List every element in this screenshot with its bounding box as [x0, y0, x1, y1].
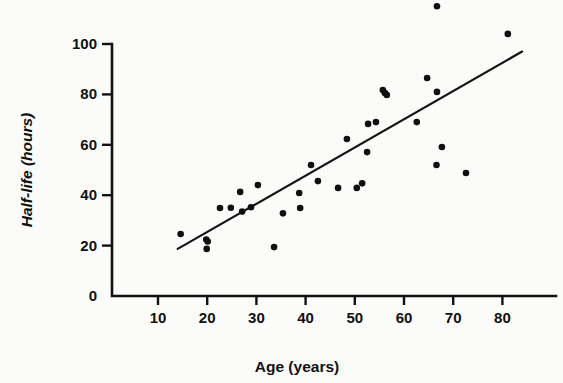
x-tick-label-20: 20 — [199, 309, 216, 326]
regression-line-segment — [178, 52, 522, 249]
axis-spine — [112, 44, 556, 296]
data-point — [297, 205, 304, 212]
data-point — [463, 170, 470, 177]
data-point — [344, 136, 351, 143]
data-point — [177, 231, 184, 238]
y-tick-label-40: 40 — [80, 186, 97, 203]
data-point — [353, 185, 360, 192]
axis-tick-labels: 0204060801001020304050607080 — [72, 35, 511, 326]
data-point — [434, 3, 441, 10]
x-tick-label-50: 50 — [346, 309, 363, 326]
scatter-plot-figure: 0204060801001020304050607080 Age (years)… — [0, 0, 563, 383]
data-point — [204, 238, 211, 245]
data-point — [439, 144, 446, 151]
y-tick-label-80: 80 — [80, 85, 97, 102]
y-tick-label-0: 0 — [89, 287, 97, 304]
data-point — [239, 208, 246, 215]
data-point — [315, 178, 322, 185]
data-point — [271, 244, 278, 251]
data-point — [383, 92, 390, 99]
x-tick-label-40: 40 — [297, 309, 314, 326]
x-tick-label-80: 80 — [494, 309, 511, 326]
data-point — [228, 205, 235, 212]
data-point — [505, 31, 512, 38]
data-point — [373, 119, 380, 126]
data-point — [335, 185, 342, 192]
data-point — [364, 149, 371, 156]
data-point — [308, 162, 315, 169]
y-tick-label-100: 100 — [72, 35, 97, 52]
data-point — [413, 119, 420, 126]
data-point — [255, 182, 262, 189]
data-point — [359, 180, 366, 187]
data-point — [296, 190, 303, 197]
data-point — [280, 210, 287, 217]
chart-canvas: 0204060801001020304050607080 Age (years)… — [0, 0, 563, 383]
data-point — [203, 246, 210, 253]
data-point — [433, 162, 440, 169]
x-tick-label-60: 60 — [396, 309, 413, 326]
axis-ticks — [102, 44, 502, 305]
axes — [112, 44, 556, 296]
x-tick-label-70: 70 — [445, 309, 462, 326]
data-point — [434, 89, 441, 96]
data-points — [177, 3, 511, 252]
data-point — [424, 75, 431, 82]
x-axis-title: Age (years) — [255, 358, 339, 375]
data-point — [365, 121, 372, 128]
regression-line — [178, 52, 522, 249]
y-tick-label-60: 60 — [80, 136, 97, 153]
data-point — [248, 204, 255, 211]
y-axis-title: Half-life (hours) — [18, 113, 35, 228]
data-point — [237, 189, 244, 196]
x-tick-label-30: 30 — [248, 309, 265, 326]
data-point — [217, 205, 224, 212]
y-tick-label-20: 20 — [80, 237, 97, 254]
x-tick-label-10: 10 — [150, 309, 167, 326]
